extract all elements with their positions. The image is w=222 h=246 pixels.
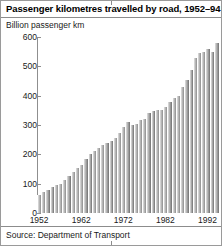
y-axis-tick-label: 100 (1, 179, 41, 189)
plot-area: 0100200300400500600 19521962197219821992 (1, 31, 221, 219)
title-bar: Passenger kilometres travelled by road, … (1, 1, 221, 18)
source-note: Source: Department of Transport (6, 230, 130, 240)
y-axis-tick-mark (37, 66, 41, 67)
y-axis-tick-mark (37, 37, 41, 38)
bottom-crop-mark (111, 241, 112, 246)
x-axis-tick-label: 1952 (30, 215, 49, 225)
x-axis-tick-label: 1972 (114, 215, 133, 225)
x-axis-tick-label: 1992 (198, 215, 217, 225)
y-axis-tick-mark (37, 125, 41, 126)
footer-divider (1, 226, 221, 227)
x-axis-tick-label: 1982 (156, 215, 175, 225)
y-axis-tick-mark (37, 154, 41, 155)
chart-title: Passenger kilometres travelled by road, … (6, 3, 221, 14)
chart-figure: Passenger kilometres travelled by road, … (0, 0, 222, 246)
bar-series (37, 37, 218, 213)
chart-subtitle: Billion passenger km (6, 20, 84, 30)
y-axis-tick-label: 300 (1, 120, 41, 130)
y-axis-tick-mark (37, 213, 41, 214)
y-axis-tick-label: 600 (1, 32, 41, 42)
y-axis-tick-label: 200 (1, 149, 41, 159)
bar (214, 43, 219, 213)
x-axis-tick-label: 1962 (72, 215, 91, 225)
y-axis-tick-label: 500 (1, 61, 41, 71)
y-axis-tick-mark (37, 96, 41, 97)
y-axis-tick-mark (37, 184, 41, 185)
y-axis-tick-label: 400 (1, 91, 41, 101)
